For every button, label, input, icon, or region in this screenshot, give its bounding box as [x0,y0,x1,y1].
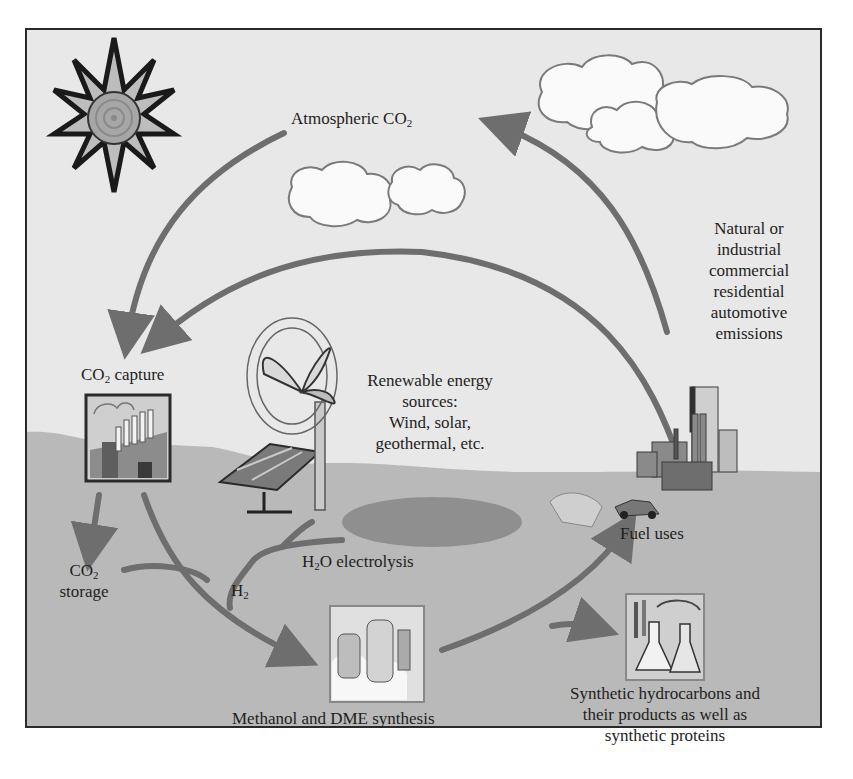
arrow-emissions-to-atmosphere [495,124,667,332]
lab-flask-icon [626,594,704,680]
label-synthetic-hydrocarbons: Synthetic hydrocarbons and their product… [540,683,790,746]
label-renewable-energy: Renewable energy sources: Wind, solar, g… [340,370,520,454]
label-h2o-electrolysis: H2O electrolysis [302,551,414,572]
label-h2: H2 [231,580,249,601]
label-co2-storage: CO2 storage [48,560,120,602]
label-fuel-uses: Fuel uses [620,523,684,544]
label-atmospheric-co2: Atmospheric CO2 [291,108,412,129]
sun-icon [54,38,174,192]
factory-icon [86,395,170,481]
label-emissions: Natural or industrial commercial residen… [676,218,822,344]
water-shadow [342,497,522,547]
label-methanol-dme-synthesis: Methanol and DME synthesis [232,708,435,729]
label-co2-capture: CO2 capture [81,364,164,385]
chemical-plant-icon [330,606,424,702]
